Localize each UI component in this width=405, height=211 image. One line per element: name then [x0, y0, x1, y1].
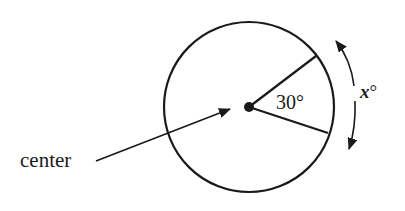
arc-label: x° [359, 81, 377, 102]
arc-label-variable: x [359, 81, 370, 102]
arc-label-degree: ° [370, 81, 378, 102]
center-pointer-arrow [96, 109, 230, 161]
center-point [244, 102, 254, 112]
circle-diagram: center 30° x° [0, 0, 405, 211]
arc-arrow-down [349, 101, 355, 149]
arc-arrow-up [336, 41, 354, 86]
center-label: center [20, 148, 71, 172]
angle-label: 30° [276, 91, 304, 113]
